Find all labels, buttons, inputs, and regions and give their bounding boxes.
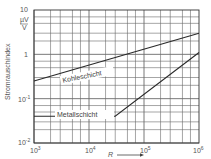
x-axis-title: R [108, 151, 113, 158]
y-unit-numerator: µV [20, 16, 29, 24]
metallschicht-line [34, 53, 199, 117]
metallschicht-label: Metallschicht [57, 111, 98, 118]
y-unit-denominator: V [22, 24, 27, 31]
y-tick-10: 10 [20, 6, 28, 13]
y-axis-title: Stromrauschindex [4, 43, 11, 100]
x-tick-1e6: 106 [193, 145, 204, 154]
x-tick-1e3: 103 [30, 145, 41, 154]
x-tick-1e5: 105 [140, 145, 151, 154]
x-tick-1e4: 104 [85, 145, 96, 154]
y-tick-0.01: 10-2 [18, 137, 30, 146]
noise-index-chart: Kohleschicht Metallschicht 10 µV V 1 10-… [0, 0, 211, 159]
y-tick-0.1: 10-1 [18, 94, 30, 103]
plot-frame [34, 10, 199, 143]
grid-lines [34, 10, 199, 143]
kohleschicht-line [34, 33, 199, 81]
y-tick-1: 1 [24, 51, 28, 58]
